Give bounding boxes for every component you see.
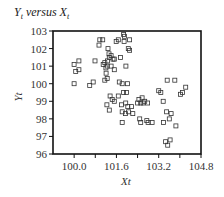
x-tick-label: 104.8	[189, 160, 214, 172]
y-axis-label: Yt	[12, 91, 24, 101]
data-point	[97, 43, 101, 47]
data-point	[107, 108, 111, 112]
data-point	[77, 59, 81, 63]
y-tick-label: 97	[36, 130, 48, 142]
data-point	[128, 38, 132, 42]
data-point	[161, 99, 165, 103]
data-point	[118, 55, 122, 59]
data-point	[120, 103, 124, 107]
data-point	[106, 47, 110, 51]
data-point	[93, 59, 97, 63]
data-point	[104, 71, 108, 75]
data-point	[72, 62, 76, 66]
data-point	[173, 78, 177, 82]
data-point	[165, 78, 169, 82]
y-tick-label: 96	[36, 148, 48, 160]
data-point	[184, 85, 188, 89]
y-tick-label: 103	[31, 25, 48, 37]
data-point	[124, 64, 128, 68]
y-axis: 96979899100101102103	[31, 25, 54, 160]
data-point	[98, 38, 102, 42]
x-tick-label: 103.2	[146, 160, 171, 172]
data-point	[120, 120, 124, 124]
data-point	[131, 112, 135, 116]
data-point	[126, 82, 130, 86]
data-point	[167, 117, 171, 121]
y-tick-label: 98	[36, 113, 48, 125]
data-point	[72, 82, 76, 86]
data-point	[165, 110, 169, 114]
data-point	[122, 40, 126, 44]
data-points	[72, 33, 188, 148]
x-tick-label: 100.0	[62, 160, 87, 172]
data-point	[169, 112, 173, 116]
data-point	[101, 38, 105, 42]
y-tick-label: 101	[31, 60, 48, 72]
x-axis-label: Xt	[120, 175, 132, 187]
data-point	[125, 91, 129, 95]
data-point	[168, 138, 172, 142]
data-point	[162, 120, 166, 124]
y-tick-label: 102	[31, 43, 48, 55]
y-tick-label: 100	[31, 78, 48, 90]
x-tick-label: 101.6	[104, 160, 129, 172]
data-point	[122, 91, 126, 95]
scatter-plot: 96979899100101102103 100.0101.6103.2104.…	[0, 0, 224, 197]
y-tick-label: 99	[36, 95, 48, 107]
x-axis: 100.0101.6103.2104.8	[62, 154, 214, 172]
data-point	[105, 103, 109, 107]
data-point	[116, 94, 120, 98]
data-point	[150, 120, 154, 124]
data-point	[174, 124, 178, 128]
